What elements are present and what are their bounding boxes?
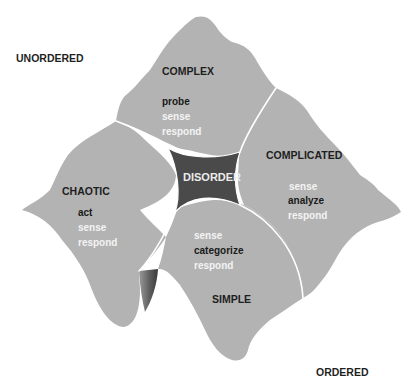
axis-label-ordered: ORDERED xyxy=(316,367,369,378)
verb-simple-respond: respond xyxy=(194,261,233,271)
domain-title-chaotic: CHAOTIC xyxy=(62,186,110,197)
verb-complex-respond: respond xyxy=(162,127,201,137)
verb-chaotic-act: act xyxy=(78,208,92,218)
verb-complicated-sense: sense xyxy=(289,182,317,192)
domain-title-complex: COMPLEX xyxy=(162,66,214,77)
verb-simple-sense: sense xyxy=(194,231,222,241)
verb-complicated-analyze: analyze xyxy=(288,196,324,206)
verb-chaotic-sense: sense xyxy=(78,223,106,233)
domain-title-complicated: COMPLICATED xyxy=(266,150,342,161)
domain-title-simple: SIMPLE xyxy=(212,294,251,305)
center-label-disorder: DISORDER xyxy=(183,172,241,183)
verb-complex-probe: probe xyxy=(162,97,190,107)
verb-complex-sense: sense xyxy=(162,112,190,122)
verb-chaotic-respond: respond xyxy=(78,238,117,248)
verb-complicated-respond: respond xyxy=(288,211,327,221)
cliff-fold xyxy=(139,269,158,312)
verb-simple-categorize: categorize xyxy=(194,246,243,256)
axis-label-unordered: UNORDERED xyxy=(16,53,84,64)
